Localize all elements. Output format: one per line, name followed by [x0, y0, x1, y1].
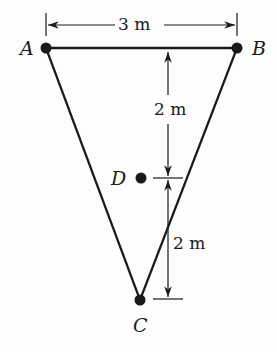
joint-c: [135, 295, 146, 306]
label-c: C: [133, 316, 148, 335]
label-b: B: [252, 39, 266, 58]
dimension-upper-height-label: 2 m: [151, 101, 189, 118]
member-bc: [140, 48, 237, 300]
joint-a: [41, 43, 52, 54]
label-d: D: [111, 169, 126, 188]
point-d: [136, 173, 147, 184]
truss-diagram: A B C D 3 m 2 m 2 m: [0, 0, 277, 352]
dimension-lower-height-label: 2 m: [173, 235, 205, 252]
dimension-width-label: 3 m: [115, 16, 153, 33]
label-a: A: [20, 39, 34, 58]
joint-b: [232, 43, 243, 54]
diagram-graphics: [0, 0, 277, 352]
